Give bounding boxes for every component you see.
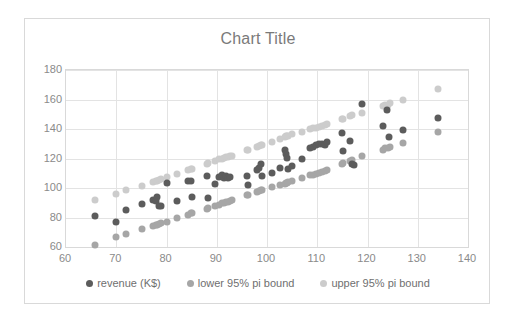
data-point — [269, 170, 276, 177]
x-axis-tick-label: 120 — [357, 252, 375, 264]
data-point — [258, 173, 265, 180]
data-point — [228, 152, 235, 159]
data-point — [289, 162, 296, 169]
data-point — [139, 182, 146, 189]
data-point — [379, 123, 386, 130]
data-point — [399, 96, 406, 103]
gridline-vertical — [267, 70, 268, 247]
data-point — [299, 174, 306, 181]
legend-item[interactable]: lower 95% pi bound — [187, 277, 295, 289]
data-point — [112, 234, 119, 241]
legend-marker-icon — [86, 280, 93, 287]
x-axis-tick-label: 110 — [307, 252, 325, 264]
legend-item[interactable]: revenue (K$) — [86, 277, 161, 289]
data-point — [188, 165, 195, 172]
data-point — [349, 111, 356, 118]
x-axis-tick-label: 130 — [408, 252, 426, 264]
data-point — [339, 130, 346, 137]
data-point — [188, 193, 195, 200]
data-point — [164, 218, 171, 225]
data-point — [244, 192, 251, 199]
data-point — [154, 193, 161, 200]
y-axis-tick-label: 160 — [26, 93, 62, 105]
data-point — [269, 139, 276, 146]
legend-item[interactable]: upper 95% pi bound — [320, 277, 429, 289]
data-point — [123, 231, 130, 238]
data-point — [244, 182, 251, 189]
data-point — [399, 127, 406, 134]
data-point — [359, 153, 366, 160]
data-point — [324, 139, 331, 146]
data-point — [289, 178, 296, 185]
data-point — [226, 174, 233, 181]
legend-item-label: revenue (K$) — [97, 277, 161, 289]
data-point — [324, 166, 331, 173]
data-point — [434, 86, 441, 93]
data-point — [112, 218, 119, 225]
data-point — [434, 128, 441, 135]
x-axis-labels: 60708090100110120130140 — [65, 252, 469, 268]
data-point — [383, 106, 390, 113]
data-point — [243, 173, 250, 180]
data-point — [211, 180, 218, 187]
data-point — [324, 120, 331, 127]
data-point — [399, 140, 406, 147]
data-point — [92, 196, 99, 203]
data-point — [276, 165, 283, 172]
data-point — [434, 114, 441, 121]
data-point — [174, 215, 181, 222]
data-point — [228, 196, 235, 203]
y-axis-tick-label: 180 — [26, 63, 62, 75]
data-point — [174, 198, 181, 205]
gridline-vertical — [418, 70, 419, 247]
data-point — [158, 203, 165, 210]
data-point — [188, 210, 195, 217]
data-point — [205, 195, 212, 202]
x-axis-tick-label: 80 — [159, 252, 171, 264]
y-axis-tick-label: 80 — [26, 211, 62, 223]
data-point — [258, 187, 265, 194]
data-point — [299, 128, 306, 135]
x-axis-tick-label: 60 — [59, 252, 71, 264]
data-point — [299, 155, 306, 162]
x-axis-tick-label: 100 — [257, 252, 275, 264]
chart-legend: revenue (K$)lower 95% pi boundupper 95% … — [25, 277, 491, 289]
data-point — [346, 137, 353, 144]
data-point — [284, 154, 291, 161]
y-axis-labels: 6080100120140160180 — [25, 69, 62, 248]
data-point — [386, 144, 393, 151]
legend-item-label: upper 95% pi bound — [331, 277, 429, 289]
x-axis-tick-label: 90 — [210, 252, 222, 264]
data-point — [258, 141, 265, 148]
data-point — [269, 184, 276, 191]
data-point — [350, 161, 357, 168]
y-axis-tick-label: 120 — [26, 152, 62, 164]
legend-marker-icon — [187, 280, 194, 287]
data-point — [112, 190, 119, 197]
y-axis-tick-label: 140 — [26, 122, 62, 134]
chart-title: Chart Title — [25, 30, 491, 48]
data-point — [203, 173, 210, 180]
data-point — [187, 177, 194, 184]
legend-item-label: lower 95% pi bound — [198, 277, 295, 289]
data-point — [359, 100, 366, 107]
data-point — [139, 201, 146, 208]
y-axis-tick-label: 100 — [26, 181, 62, 193]
y-axis-tick-label: 60 — [26, 240, 62, 252]
data-point — [174, 170, 181, 177]
plot-area — [65, 69, 469, 248]
data-point — [164, 179, 171, 186]
data-point — [257, 161, 264, 168]
x-axis-tick-label: 70 — [109, 252, 121, 264]
data-point — [123, 207, 130, 214]
data-point — [244, 146, 251, 153]
legend-marker-icon — [320, 280, 327, 287]
data-point — [92, 241, 99, 248]
data-point — [359, 109, 366, 116]
data-point — [123, 186, 130, 193]
data-point — [139, 226, 146, 233]
gridline-vertical — [317, 70, 318, 247]
data-point — [385, 134, 392, 141]
chart-card: Chart Title 6080100120140160180 60708090… — [24, 18, 490, 304]
data-point — [289, 131, 296, 138]
